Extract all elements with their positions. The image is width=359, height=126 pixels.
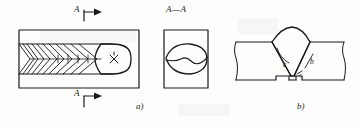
view-b-weld-crown (272, 27, 310, 76)
drawing-vector-layer (0, 0, 359, 126)
figure-canvas: A A A—A a) b) c b c (0, 0, 359, 126)
view-section-pool-ellipse (166, 44, 207, 74)
view-a-arc-mark (110, 52, 118, 63)
view-section-plate-outline (164, 30, 208, 88)
label-groove-face-c: c (283, 60, 286, 69)
view-section-fusion-line (166, 57, 207, 64)
section-label-a-top: A (74, 4, 80, 14)
view-a-section-arrow-top (84, 9, 102, 22)
view-a-section-arrow-bottom (84, 93, 102, 108)
label-bevel-b: b (310, 57, 314, 66)
caption-view-b: b) (297, 101, 305, 111)
section-view-label-aa: A—A (166, 4, 187, 14)
caption-view-a: a) (136, 101, 144, 111)
label-root-gap-c: c (299, 71, 302, 78)
section-label-a-bottom: A (74, 88, 80, 98)
view-a-centre-line (30, 55, 101, 63)
